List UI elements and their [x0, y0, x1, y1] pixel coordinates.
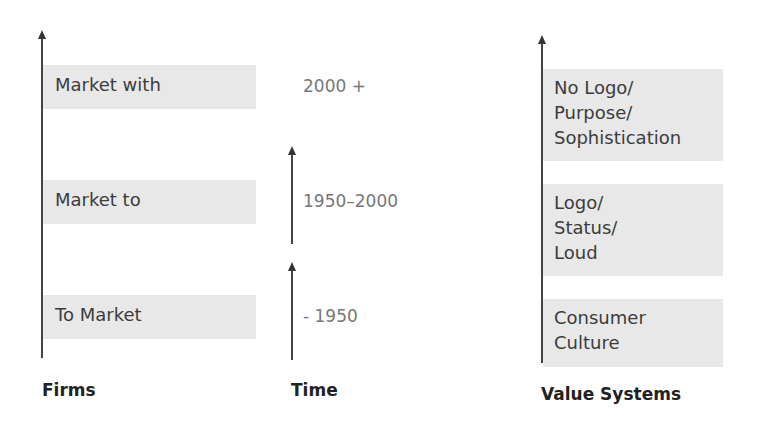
time-arrow-upper-line [291, 154, 293, 244]
value-text-consumer-culture: Consumer Culture [543, 299, 723, 355]
firms-box-market-with: Market with [43, 65, 256, 109]
firms-box-market-to: Market to [43, 180, 256, 224]
time-label-pre-1950: - 1950 [303, 306, 358, 326]
time-arrow-lower-line [291, 270, 293, 360]
firms-label-market-with: Market with [55, 73, 161, 97]
value-box-logo: Logo/ Status/ Loud [543, 184, 723, 276]
value-box-no-logo: No Logo/ Purpose/ Sophistication [543, 69, 723, 161]
firms-box-to-market: To Market [43, 295, 256, 339]
value-text-no-logo: No Logo/ Purpose/ Sophistication [543, 69, 723, 150]
firms-title: Firms [42, 380, 96, 400]
value-text-logo: Logo/ Status/ Loud [543, 184, 723, 265]
value-systems-title: Value Systems [541, 384, 681, 404]
time-title: Time [291, 380, 338, 400]
firms-label-to-market: To Market [55, 303, 142, 327]
value-box-consumer-culture: Consumer Culture [543, 299, 723, 367]
time-label-2000-plus: 2000 + [303, 76, 366, 96]
time-label-1950-2000: 1950–2000 [303, 191, 398, 211]
firms-label-market-to: Market to [55, 188, 141, 212]
